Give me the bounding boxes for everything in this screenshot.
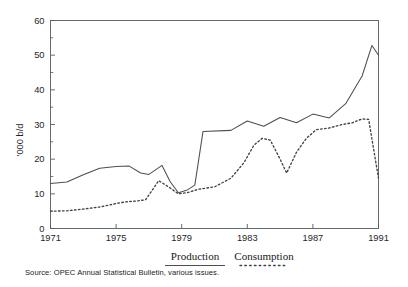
svg-text:1987: 1987 xyxy=(303,233,324,243)
legend-entry-consumption: Consumption xyxy=(234,250,294,268)
svg-text:10: 10 xyxy=(34,189,44,199)
svg-text:'000 b/d: '000 b/d xyxy=(15,124,25,157)
chart-figure: 0102030405060197119751979198319871991 '0… xyxy=(0,0,408,287)
svg-text:60: 60 xyxy=(34,16,44,26)
series-line-consumption xyxy=(51,119,379,211)
svg-text:30: 30 xyxy=(34,120,44,130)
axis-ticks xyxy=(51,21,379,229)
axes xyxy=(51,21,379,229)
source-note: Source: OPEC Annual Statistical Bulletin… xyxy=(25,268,219,277)
line-chart: 0102030405060197119751979198319871991 '0… xyxy=(0,0,408,287)
svg-text:40: 40 xyxy=(34,85,44,95)
svg-text:1971: 1971 xyxy=(40,233,61,243)
series-line-production xyxy=(51,45,379,192)
svg-text:1975: 1975 xyxy=(106,233,127,243)
svg-text:1991: 1991 xyxy=(368,233,389,243)
svg-text:50: 50 xyxy=(34,50,44,60)
svg-text:20: 20 xyxy=(34,154,44,164)
svg-text:1983: 1983 xyxy=(237,233,258,243)
chart-legend: Production Consumption xyxy=(165,250,294,268)
y-axis-label: '000 b/d xyxy=(15,124,25,157)
legend-entry-production: Production xyxy=(165,250,225,268)
legend-label-production: Production xyxy=(171,250,219,262)
legend-label-consumption: Consumption xyxy=(234,250,293,262)
legend-swatch-dotted-line xyxy=(234,263,294,268)
svg-text:1979: 1979 xyxy=(171,233,192,243)
data-series xyxy=(51,45,379,211)
